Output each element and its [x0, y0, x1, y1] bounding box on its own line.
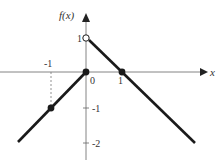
- function-graph: x f(x) 1 -1 -2 -1 0 1: [0, 0, 216, 160]
- x-axis-label: x: [209, 66, 215, 78]
- filled-point-origin: [83, 69, 90, 76]
- x-tick-label-0: 0: [90, 75, 95, 86]
- y-axis-arrow-icon: [82, 13, 90, 22]
- y-tick-label-neg2: -2: [92, 138, 100, 149]
- x-axis-arrow-icon: [200, 68, 208, 76]
- y-tick-label-1: 1: [77, 33, 82, 44]
- x-tick-label-neg1: -1: [44, 58, 52, 69]
- y-axis-label: f(x): [59, 9, 75, 22]
- x-tick-label-1: 1: [118, 75, 123, 86]
- series-right-line: [89, 40, 195, 143]
- open-point-0-1: [83, 35, 89, 41]
- filled-point-1-0: [119, 69, 126, 76]
- filled-point-neg1-neg1: [48, 105, 55, 112]
- y-tick-label-neg1: -1: [92, 103, 100, 114]
